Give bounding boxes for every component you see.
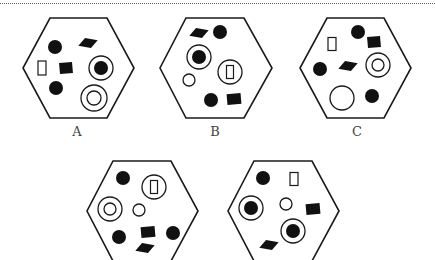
- option-label-c: C: [352, 124, 362, 139]
- filled-rect-icon: [141, 226, 156, 238]
- inner-dot: [286, 224, 300, 238]
- outer-ring: [142, 175, 166, 199]
- inner-dot: [192, 50, 206, 64]
- filled-circle-icon: [48, 40, 62, 54]
- filled-rect-icon: [59, 62, 73, 74]
- filled-diamond-icon: [337, 59, 359, 73]
- hexagon-option-c: C: [300, 18, 411, 139]
- hexagon-puzzle-figure: ABC: [0, 0, 435, 260]
- open-circle-icon: [280, 198, 292, 210]
- outer-ring: [218, 60, 242, 84]
- inner-ring: [372, 59, 384, 71]
- inner-rect: [151, 181, 158, 194]
- hexagon-outline: [23, 18, 134, 118]
- filled-circle-icon: [313, 62, 327, 76]
- ring-with-dot-icon: [89, 56, 113, 80]
- ring-with-dot-icon: [281, 219, 305, 243]
- inner-ring: [87, 91, 101, 105]
- filled-circle-icon: [166, 226, 180, 240]
- outer-ring: [81, 85, 107, 111]
- inner-ring: [104, 203, 116, 215]
- open-circle-icon: [133, 204, 145, 216]
- filled-rect-icon: [227, 93, 242, 105]
- hexagon-option-a: A: [23, 18, 134, 139]
- hexagon-option-d: [87, 161, 198, 260]
- filled-diamond-icon: [134, 241, 156, 255]
- filled-circle-icon: [365, 89, 379, 103]
- filled-diamond-icon: [258, 238, 280, 252]
- open-circle-icon: [330, 86, 354, 110]
- filled-circle-icon: [256, 171, 270, 185]
- filled-circle-icon: [116, 171, 130, 185]
- double-ring-icon: [366, 53, 390, 77]
- option-label-b: B: [210, 124, 220, 139]
- ring-with-dot-icon: [187, 45, 211, 69]
- filled-circle-icon: [204, 93, 218, 107]
- filled-diamond-icon: [188, 26, 210, 40]
- inner-rect: [227, 66, 234, 79]
- filled-diamond-icon: [77, 36, 99, 50]
- ring-with-rect-icon: [218, 60, 242, 84]
- ring-with-dot-icon: [239, 196, 263, 220]
- option-label-a: A: [71, 124, 82, 139]
- filled-circle-icon: [351, 25, 365, 39]
- ring-with-rect-icon: [142, 175, 166, 199]
- hexagon-option-b: B: [160, 18, 272, 139]
- filled-rect-icon: [306, 203, 321, 215]
- outer-ring: [366, 53, 390, 77]
- hexagon-option-e: [228, 161, 339, 260]
- inner-dot: [244, 201, 258, 215]
- open-circle-icon: [183, 74, 195, 86]
- filled-circle-icon: [49, 81, 63, 95]
- open-rect-icon: [38, 61, 46, 75]
- open-rect-icon: [328, 38, 336, 51]
- inner-dot: [94, 61, 108, 75]
- filled-rect-icon: [367, 36, 381, 48]
- filled-circle-icon: [112, 230, 126, 244]
- filled-circle-icon: [213, 25, 227, 39]
- outer-ring: [98, 197, 122, 221]
- open-rect-icon: [290, 173, 298, 186]
- double-ring-icon: [81, 85, 107, 111]
- double-ring-icon: [98, 197, 122, 221]
